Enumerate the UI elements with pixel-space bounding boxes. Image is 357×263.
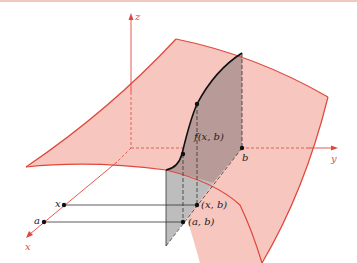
point-xb [195,203,199,207]
z-axis-arrow [129,13,134,20]
b-label: b [242,153,248,163]
xb-point-label: (x, b) [201,200,227,210]
ab-point-label: (a, b) [188,217,215,227]
point-ab [181,220,185,224]
diagram-canvas: z y x b f(x, b) x a (x, b) (a, b) [0,0,357,263]
f-xb-label: f(x, b) [194,132,224,142]
point-a [42,220,46,224]
a-point-label: a [34,216,40,226]
point-f-ab [181,152,185,156]
point-f-xb [195,102,199,106]
z-axis-label: z [135,12,140,22]
point-x [62,203,66,207]
surface-diagram [0,0,357,263]
y-axis-label: y [331,154,337,164]
point-b [240,146,244,150]
y-axis-arrow [331,146,338,151]
x-axis-label: x [25,242,31,252]
x-point-label: x [55,199,61,209]
